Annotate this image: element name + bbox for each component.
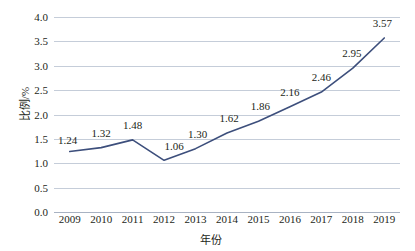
line-chart: 比例/% 0.00.51.01.52.02.53.03.54.0 1.241.3… <box>0 0 415 251</box>
y-axis-tick-label: 0.5 <box>22 182 48 193</box>
x-axis-title-text: 年份 <box>200 234 222 246</box>
x-axis-tick-label: 2017 <box>310 214 332 225</box>
x-axis-tick-label: 2016 <box>279 214 301 225</box>
y-axis-tick-label: 3.0 <box>22 60 48 71</box>
y-axis-tick-label: 4.0 <box>22 12 48 23</box>
y-axis-tick-label: 3.5 <box>22 36 48 47</box>
y-axis-tick-label: 2.0 <box>22 109 48 120</box>
data-point-label: 2.46 <box>312 72 331 83</box>
data-point-label: 3.57 <box>373 18 392 29</box>
y-axis-tick-label: 2.5 <box>22 85 48 96</box>
data-point-label: 1.62 <box>219 113 238 124</box>
x-axis-tick-label: 2015 <box>247 214 269 225</box>
data-point-label: 2.95 <box>342 48 361 59</box>
data-point-label: 1.06 <box>164 141 183 152</box>
x-axis-tick-label: 2014 <box>216 214 238 225</box>
y-axis-tick-label: 1.5 <box>22 133 48 144</box>
x-axis-tick-label: 2013 <box>185 214 207 225</box>
data-point-label: 1.86 <box>251 101 270 112</box>
data-point-label: 1.30 <box>188 129 207 140</box>
x-axis-title: 年份 <box>0 231 415 247</box>
data-point-label: 2.16 <box>280 87 299 98</box>
x-axis-tick-label: 2012 <box>153 214 175 225</box>
x-axis-tick-label: 2011 <box>122 214 144 225</box>
x-axis-tick-label: 2018 <box>342 214 364 225</box>
data-point-label: 1.48 <box>123 120 142 131</box>
data-point-label: 1.32 <box>92 128 111 139</box>
y-axis-tick-label: 1.0 <box>22 158 48 169</box>
plot-area: 1.241.321.481.061.301.621.862.162.462.95… <box>54 17 400 212</box>
x-axis-tick-label: 2009 <box>59 214 81 225</box>
x-axis-tick-label: 2019 <box>373 214 395 225</box>
data-point-label: 1.24 <box>58 135 77 146</box>
x-axis-tick-label: 2010 <box>90 214 112 225</box>
